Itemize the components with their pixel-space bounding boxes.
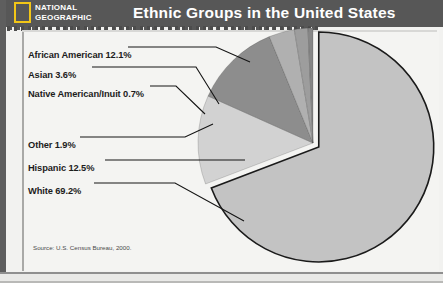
slice-label: White 69.2%: [28, 186, 81, 196]
slice-label: Hispanic 12.5%: [28, 163, 94, 173]
infographic-poster: NATIONAL GEOGRAPHIC Ethnic Groups in the…: [0, 0, 443, 283]
slice-label: Other 1.9%: [28, 140, 76, 150]
pie-slices: [198, 28, 434, 262]
leader-line-african-american: [128, 47, 250, 62]
frame-bottom-rule: [0, 272, 443, 274]
leader-line-native-american: [150, 86, 205, 114]
slice-label: African American 12.1%: [28, 50, 131, 60]
leader-line-other: [80, 124, 213, 137]
slice-label: Native American/Inuit 0.7%: [28, 89, 144, 99]
frame-left-edge: [0, 0, 6, 283]
slice-label: Asian 3.6%: [28, 70, 76, 80]
source-note: Source: U.S. Census Bureau, 2000.: [33, 244, 131, 251]
